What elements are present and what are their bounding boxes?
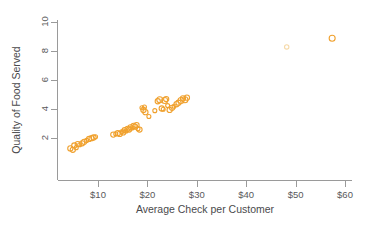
x-tick-label: $50: [288, 189, 304, 200]
y-tick-label: 10: [39, 16, 50, 27]
x-tick-label: $30: [189, 189, 205, 200]
scatter-chart: 246810 Quality of Food Served $10$20$30$…: [0, 0, 366, 225]
chart-canvas: 246810 Quality of Food Served $10$20$30$…: [0, 0, 366, 225]
data-point: [285, 45, 289, 49]
y-tick-group: 246810: [39, 16, 58, 140]
y-tick-label: 6: [39, 77, 50, 82]
y-tick-label: 4: [39, 106, 50, 111]
x-axis: $10$20$30$40$50$60 Average Check per Cus…: [58, 181, 353, 216]
data-point: [147, 114, 151, 118]
data-point: [164, 96, 169, 101]
data-points-layer: [68, 35, 335, 152]
y-axis: 246810 Quality of Food Served: [10, 16, 58, 180]
x-axis-title: Average Check per Customer: [136, 203, 275, 215]
y-tick-label: 8: [39, 48, 50, 53]
data-point: [329, 35, 335, 41]
y-axis-title: Quality of Food Served: [10, 46, 22, 154]
x-tick-label: $40: [238, 189, 254, 200]
x-tick-label: $20: [139, 189, 155, 200]
y-tick-label: 2: [39, 135, 50, 140]
x-tick-label: $60: [337, 189, 353, 200]
x-tick-group: $10$20$30$40$50$60: [90, 181, 353, 200]
x-tick-label: $10: [90, 189, 106, 200]
data-point: [153, 109, 157, 113]
